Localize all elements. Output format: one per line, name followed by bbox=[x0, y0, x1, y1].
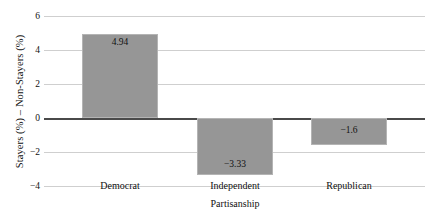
gridline-6 bbox=[44, 16, 425, 17]
y-tick-neg2: −2 bbox=[14, 147, 40, 157]
y-tick-0: 0 bbox=[14, 113, 40, 123]
category-label-independent: Independent bbox=[189, 180, 281, 191]
x-axis-title: Partisanship bbox=[44, 198, 426, 209]
bar-value-democrat: 4.94 bbox=[82, 37, 158, 47]
y-axis-tick-labels: 6 4 2 0 −2 −4 bbox=[10, 0, 40, 222]
plot-area: 4.94 −3.33 −1.6 Democrat Independent Rep… bbox=[44, 0, 426, 222]
y-tick-2: 2 bbox=[14, 79, 40, 89]
bar-value-republican: −1.6 bbox=[311, 125, 387, 135]
category-label-republican: Republican bbox=[307, 180, 391, 191]
y-tick-6: 6 bbox=[14, 11, 40, 21]
y-tick-neg4: −4 bbox=[14, 181, 40, 191]
y-tick-4: 4 bbox=[14, 45, 40, 55]
bar-value-independent: −3.33 bbox=[197, 159, 273, 169]
bar-chart: Stayers (%) – Non-Stayers (%) 6 4 2 0 −2… bbox=[0, 0, 433, 222]
category-label-democrat: Democrat bbox=[82, 180, 158, 191]
